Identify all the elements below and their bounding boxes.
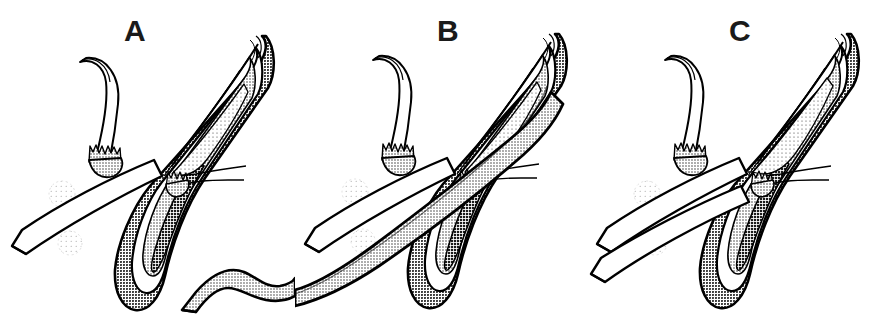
panel-a-artwork <box>0 0 295 334</box>
panel-b-artwork <box>295 0 590 334</box>
figure-root: A <box>0 0 884 334</box>
panel-a-upper-hook <box>80 58 122 177</box>
panel-c-svg <box>589 0 884 334</box>
panel-c-artwork <box>589 0 884 334</box>
panel-c: C <box>589 0 884 334</box>
panel-b-upper-hook <box>373 56 415 175</box>
panel-a: A <box>0 0 295 334</box>
panel-a-svg <box>0 0 295 334</box>
panel-a-free-tube <box>182 270 295 312</box>
panel-b-svg <box>295 0 590 334</box>
panel-c-upper-hook <box>665 56 707 175</box>
panel-b: B <box>295 0 590 334</box>
